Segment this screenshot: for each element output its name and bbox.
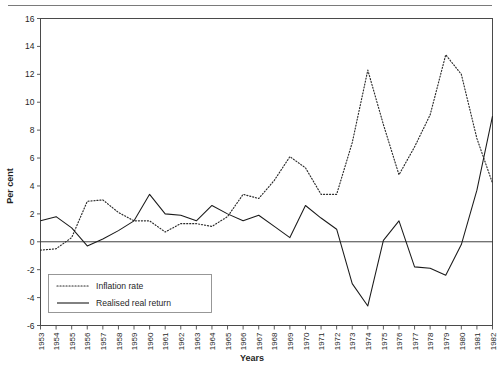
x-tick-label: 1970 [302,332,311,350]
x-axis-title: Years [240,353,264,363]
y-tick-label: -2 [27,265,35,275]
x-tick-label: 1965 [224,332,233,350]
y-tick-label: 2 [30,209,35,219]
x-tick-label: 1961 [161,332,170,350]
x-tick-label: 1977 [411,332,420,350]
x-tick-label: 1958 [115,332,124,350]
y-tick-label: -4 [27,293,35,303]
x-tick-label: 1968 [270,332,279,350]
x-tick-label: 1953 [37,332,46,350]
y-tick-label: 4 [30,181,35,191]
x-tick-label: 1978 [426,332,435,350]
y-tick-label: 10 [25,97,35,107]
x-tick-label: 1979 [442,332,451,350]
y-tick-label: 0 [30,237,35,247]
x-tick-label: 1955 [68,332,77,350]
x-tick-label: 1964 [208,332,217,350]
x-tick-label: 1957 [99,332,108,350]
x-tick-label: 1972 [333,332,342,350]
y-tick-label: 16 [25,14,35,24]
x-tick-label: 1967 [255,332,264,350]
x-tick-label: 1975 [380,332,389,350]
x-tick-label: 1954 [52,332,61,350]
y-axis-title: Per cent [5,168,15,204]
legend-label-realised-real-return: Realised real return [96,298,171,308]
legend-label-inflation-rate: Inflation rate [96,281,144,291]
x-tick-label: 1980 [458,332,467,350]
chart-legend: Inflation rate Realised real return [49,275,212,313]
x-tick-label: 1973 [348,332,357,350]
y-tick-label: -6 [27,321,35,331]
x-tick-label: 1981 [473,332,482,350]
x-tick-label: 1963 [193,332,202,350]
x-tick-label: 1960 [146,332,155,350]
x-tick-label: 1956 [83,332,92,350]
y-tick-label: 8 [30,125,35,135]
x-tick-label: 1962 [177,332,186,350]
chart-figure: 1614121086420-2-4-6 19531954195519561957… [0,0,498,371]
x-tick-label: 1966 [239,332,248,350]
y-tick-label: 6 [30,153,35,163]
line-chart-svg: 1614121086420-2-4-6 19531954195519561957… [0,0,498,371]
x-tick-label: 1969 [286,332,295,350]
y-axis: 1614121086420-2-4-6 [25,14,40,331]
y-tick-label: 14 [25,41,35,51]
y-tick-label: 12 [25,69,35,79]
x-tick-label: 1974 [364,332,373,350]
x-tick-label: 1976 [395,332,404,350]
x-axis: 1953195419551956195719581959196019611962… [37,326,498,351]
x-tick-label: 1959 [130,332,139,350]
x-tick-label: 1982 [489,332,498,350]
x-tick-label: 1971 [317,332,326,350]
